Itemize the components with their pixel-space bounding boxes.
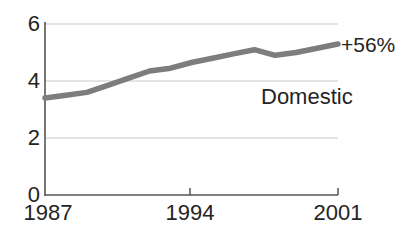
y-tick-label-6: 6 — [14, 13, 40, 35]
gridlines — [45, 24, 338, 138]
x-tick-label-2001: 2001 — [302, 202, 374, 224]
x-tick-label-1994: 1994 — [154, 202, 226, 224]
change-annotation: +56% — [341, 34, 395, 55]
y-tick-label-4: 4 — [14, 70, 40, 92]
chart-container: 6 4 2 0 1987 1994 2001 +56% Domestic — [0, 0, 415, 243]
y-tick-label-2: 2 — [14, 127, 40, 149]
series-label-domestic: Domestic — [261, 86, 353, 107]
x-tick-label-1987: 1987 — [12, 202, 84, 224]
